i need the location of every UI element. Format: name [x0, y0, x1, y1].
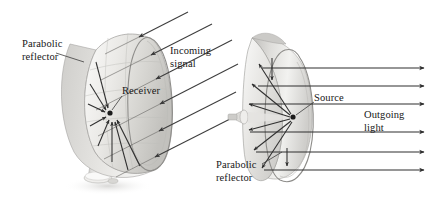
- label-outgoing-light-line2: light: [364, 122, 384, 133]
- label-parabolic-reflector-right-line2: reflector: [216, 172, 253, 183]
- label-parabolic-reflector-left-line2: reflector: [22, 51, 59, 62]
- parabolic-reflector-diagram: Parabolic reflector Incoming signal Rece…: [0, 0, 430, 203]
- label-incoming-signal-line2: signal: [170, 58, 196, 69]
- label-incoming-signal-line1: Incoming: [170, 45, 212, 56]
- label-parabolic-reflector-left-line1: Parabolic: [22, 38, 63, 49]
- figure-canvas: Parabolic reflector Incoming signal Rece…: [0, 0, 430, 203]
- spotlight-reflector-panel: Source Outgoing light Parabolic reflecto…: [216, 33, 424, 183]
- label-parabolic-reflector-right-line1: Parabolic: [216, 159, 257, 170]
- dish-inner-surface: [85, 34, 173, 173]
- label-outgoing-light-line1: Outgoing: [364, 109, 405, 120]
- label-source: Source: [314, 92, 344, 103]
- receiver-focal-point: [107, 110, 112, 115]
- satellite-dish-panel: Parabolic reflector Incoming signal Rece…: [22, 12, 238, 195]
- source-focal-point: [290, 114, 295, 119]
- label-receiver: Receiver: [122, 85, 161, 96]
